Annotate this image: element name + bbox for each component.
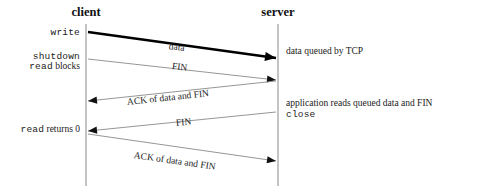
lifeline-header-client: client — [71, 5, 100, 20]
arrow-label-data: data — [168, 41, 185, 53]
label-write: write — [50, 28, 80, 38]
arrow-label-fin-1: FIN — [171, 61, 187, 73]
label-read-returns-0-serif: returns 0 — [44, 124, 80, 134]
label-close: close — [286, 110, 316, 120]
label-read-blocks-serif: blocks — [53, 61, 80, 71]
label-read-blocks-mono: read — [29, 61, 53, 72]
label-read-returns-0: read returns 0 — [21, 125, 81, 135]
arrow-label-fin-2: FIN — [175, 116, 191, 128]
lifeline-header-server: server — [261, 5, 294, 20]
label-data-queued-by-tcp: data queued by TCP — [286, 47, 363, 57]
label-read-returns-0-mono: read — [21, 124, 45, 135]
label-read-blocks: read blocks — [29, 62, 80, 72]
tcp-sequence-diagram: client server write shutdown read blocks… — [0, 0, 479, 189]
label-application-reads-queued-data: application reads queued data and FIN — [286, 99, 432, 109]
